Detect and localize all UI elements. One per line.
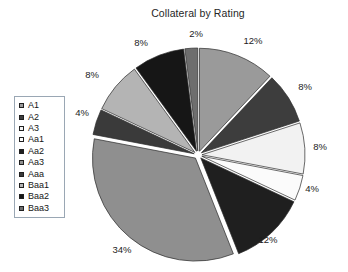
legend-item-aaa[interactable]: Aaa — [19, 168, 60, 179]
legend-item-label: Baa3 — [28, 204, 49, 213]
legend-item-aa2[interactable]: Aa2 — [19, 146, 60, 157]
pie-value-label-aa1: 4% — [305, 183, 319, 194]
legend-item-label: A3 — [28, 124, 39, 133]
legend-item-label: Baa1 — [28, 181, 49, 190]
legend-item-a3[interactable]: A3 — [19, 123, 60, 134]
legend-item-baa1[interactable]: Baa1 — [19, 180, 60, 191]
pie-value-label-aa3: 34% — [112, 244, 132, 255]
legend-swatch-icon — [19, 149, 24, 154]
pie-value-label-aa2: 12% — [258, 234, 278, 245]
pie-slices-group — [92, 48, 305, 261]
legend-swatch-icon — [19, 172, 24, 177]
pie-chart-figure: Collateral by Rating 12%8%8%4%12%34%4%8%… — [0, 0, 348, 272]
pie-value-label-aaa: 4% — [75, 107, 89, 118]
legend-item-label: A2 — [28, 113, 39, 122]
pie-value-label-baa1: 8% — [85, 69, 99, 80]
legend-item-label: Aa1 — [28, 135, 44, 144]
legend-swatch-icon — [19, 126, 24, 131]
legend-item-aa3[interactable]: Aa3 — [19, 157, 60, 168]
legend-item-label: A1 — [28, 101, 39, 110]
legend-item-aa1[interactable]: Aa1 — [19, 134, 60, 145]
legend-item-label: Aa2 — [28, 147, 44, 156]
legend-swatch-icon — [19, 137, 24, 142]
pie-value-label-a1: 12% — [243, 35, 263, 46]
legend-item-a1[interactable]: A1 — [19, 100, 60, 111]
legend-item-label: Aa3 — [28, 158, 44, 167]
legend-item-label: Baa2 — [28, 192, 49, 201]
legend-item-baa3[interactable]: Baa3 — [19, 203, 60, 214]
legend-item-label: Aaa — [28, 170, 44, 179]
pie-slice-aa3[interactable] — [92, 139, 233, 261]
legend-swatch-icon — [19, 103, 24, 108]
chart-legend: A1A2A3Aa1Aa2Aa3AaaBaa1Baa2Baa3 — [14, 96, 65, 218]
pie-value-label-a3: 8% — [313, 141, 327, 152]
legend-swatch-icon — [19, 206, 24, 211]
legend-swatch-icon — [19, 183, 24, 188]
pie-value-label-baa2: 8% — [134, 37, 148, 48]
pie-value-label-a2: 8% — [298, 81, 312, 92]
legend-swatch-icon — [19, 115, 24, 120]
pie-value-label-baa3: 2% — [189, 28, 203, 39]
legend-item-baa2[interactable]: Baa2 — [19, 191, 60, 202]
legend-item-a2[interactable]: A2 — [19, 111, 60, 122]
legend-swatch-icon — [19, 194, 24, 199]
legend-swatch-icon — [19, 160, 24, 165]
